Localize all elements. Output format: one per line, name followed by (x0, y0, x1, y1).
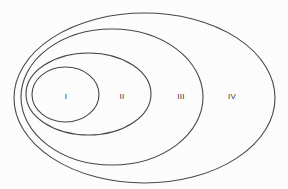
label-region-iv: IV (228, 93, 236, 101)
label-region-i: I (65, 93, 68, 101)
label-region-iii: III (177, 93, 185, 101)
nested-ellipse-diagram (0, 0, 288, 189)
ellipse-iii (21, 29, 203, 165)
ellipse-ii (26, 53, 151, 135)
label-region-ii: II (119, 93, 124, 101)
